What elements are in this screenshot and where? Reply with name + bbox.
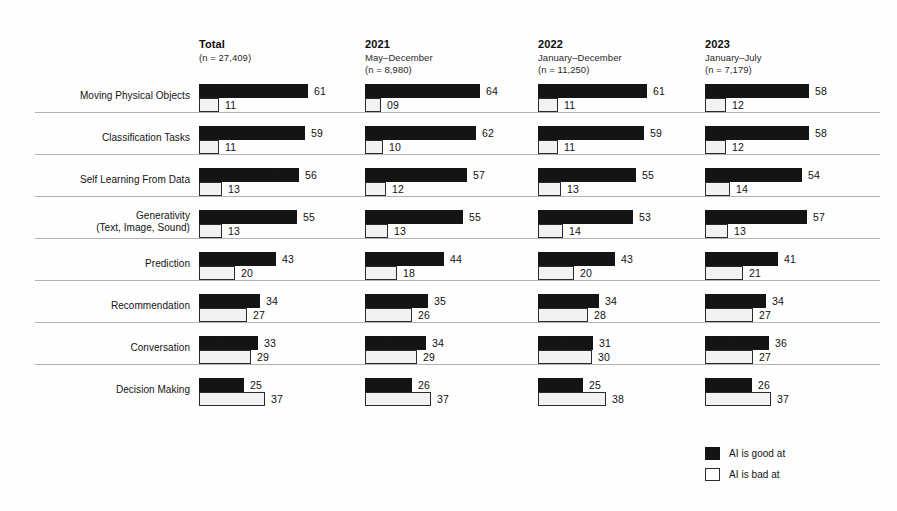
bar-value-label: 64 bbox=[486, 84, 498, 98]
bar-value-label: 13 bbox=[734, 224, 746, 238]
column-header-sample-size: (n = 11,250) bbox=[538, 64, 622, 76]
bar-ai-good-at bbox=[705, 336, 769, 350]
bar-value-label: 12 bbox=[732, 140, 744, 154]
bar-ai-bad-at bbox=[199, 98, 219, 112]
column-header-2022: 2022January–December(n = 11,250) bbox=[538, 38, 622, 76]
chart-row: Moving Physical Objects6111640961115812 bbox=[0, 76, 897, 117]
column-header-year: 2022 bbox=[538, 38, 622, 50]
bar-ai-good-at bbox=[705, 84, 809, 98]
bar-value-label: 29 bbox=[257, 350, 269, 364]
bar-ai-good-at bbox=[538, 294, 599, 308]
bar-ai-good-at bbox=[705, 252, 778, 266]
row-label: Classification Tasks bbox=[40, 132, 190, 144]
bar-value-label: 25 bbox=[589, 378, 601, 392]
bar-ai-bad-at bbox=[538, 140, 558, 154]
legend-item-good: AI is good at bbox=[705, 443, 785, 464]
chart-row: Conversation3329342931303627 bbox=[0, 328, 897, 369]
bar-ai-good-at bbox=[199, 336, 258, 350]
bar-ai-bad-at bbox=[705, 350, 753, 364]
bar-ai-good-at bbox=[199, 378, 244, 392]
bar-value-label: 13 bbox=[567, 182, 579, 196]
chart-row: Generativity(Text, Image, Sound)55135513… bbox=[0, 202, 897, 243]
bar-ai-bad-at bbox=[199, 308, 247, 322]
bar-ai-bad-at bbox=[538, 350, 592, 364]
bar-ai-bad-at bbox=[365, 140, 383, 154]
bar-value-label: 21 bbox=[749, 266, 761, 280]
bar-value-label: 54 bbox=[808, 168, 820, 182]
bar-ai-good-at bbox=[199, 210, 297, 224]
bar-value-label: 13 bbox=[394, 224, 406, 238]
bar-ai-bad-at bbox=[705, 308, 753, 322]
bar-ai-bad-at bbox=[199, 140, 219, 154]
bar-ai-good-at bbox=[705, 294, 766, 308]
bar-ai-good-at bbox=[365, 336, 426, 350]
bar-value-label: 26 bbox=[418, 378, 430, 392]
column-header-year: 2023 bbox=[705, 38, 762, 50]
bar-value-label: 56 bbox=[305, 168, 317, 182]
bar-value-label: 57 bbox=[813, 210, 825, 224]
row-separator bbox=[35, 238, 880, 239]
bar-value-label: 09 bbox=[387, 98, 399, 112]
bar-value-label: 11 bbox=[225, 98, 236, 112]
bar-value-label: 11 bbox=[564, 98, 575, 112]
legend-swatch-good bbox=[705, 447, 720, 460]
bar-value-label: 29 bbox=[423, 350, 435, 364]
row-separator bbox=[35, 112, 880, 113]
bar-value-label: 12 bbox=[732, 98, 744, 112]
bar-value-label: 34 bbox=[432, 336, 444, 350]
bar-value-label: 37 bbox=[271, 392, 283, 406]
bar-ai-good-at bbox=[538, 84, 647, 98]
bar-ai-good-at bbox=[199, 126, 305, 140]
bar-ai-good-at bbox=[365, 126, 476, 140]
bar-ai-bad-at bbox=[705, 392, 771, 406]
bar-value-label: 12 bbox=[392, 182, 404, 196]
bar-value-label: 10 bbox=[389, 140, 401, 154]
bar-value-label: 53 bbox=[639, 210, 651, 224]
bar-ai-good-at bbox=[365, 210, 463, 224]
column-header-2021: 2021May–December(n = 8,980) bbox=[365, 38, 433, 76]
bar-ai-good-at bbox=[365, 294, 428, 308]
bar-ai-good-at bbox=[538, 378, 583, 392]
bar-ai-bad-at bbox=[705, 140, 726, 154]
row-label: Decision Making bbox=[40, 384, 190, 396]
bar-ai-good-at bbox=[199, 294, 260, 308]
bar-value-label: 18 bbox=[403, 266, 415, 280]
column-header-sample-size: (n = 7,179) bbox=[705, 64, 762, 76]
chart-row: Recommendation3427352634283427 bbox=[0, 286, 897, 327]
bar-value-label: 20 bbox=[580, 266, 592, 280]
bar-ai-bad-at bbox=[199, 182, 222, 196]
row-label: Self Learning From Data bbox=[40, 174, 190, 186]
column-header-period: January–December bbox=[538, 52, 622, 64]
bar-ai-bad-at bbox=[365, 224, 388, 238]
bar-value-label: 37 bbox=[777, 392, 789, 406]
bar-ai-bad-at bbox=[365, 98, 381, 112]
bar-value-label: 11 bbox=[225, 140, 236, 154]
column-header-sample-size: (n = 27,409) bbox=[199, 52, 251, 64]
bar-value-label: 43 bbox=[282, 252, 294, 266]
chart-row: Decision Making2537263725382637 bbox=[0, 370, 897, 411]
bar-ai-good-at bbox=[365, 252, 444, 266]
bar-ai-good-at bbox=[538, 336, 593, 350]
bar-value-label: 36 bbox=[775, 336, 787, 350]
bar-ai-good-at bbox=[538, 210, 633, 224]
bar-value-label: 55 bbox=[469, 210, 481, 224]
bar-ai-good-at bbox=[705, 378, 752, 392]
bar-value-label: 35 bbox=[434, 294, 446, 308]
bar-value-label: 61 bbox=[314, 84, 326, 98]
bar-ai-bad-at bbox=[199, 224, 222, 238]
bar-value-label: 27 bbox=[759, 350, 771, 364]
bar-ai-good-at bbox=[705, 126, 809, 140]
bar-value-label: 41 bbox=[784, 252, 796, 266]
bar-value-label: 30 bbox=[598, 350, 610, 364]
bar-value-label: 25 bbox=[250, 378, 262, 392]
bar-value-label: 26 bbox=[758, 378, 770, 392]
bar-ai-bad-at bbox=[365, 266, 397, 280]
chart-page: Total(n = 27,409)2021May–December(n = 8,… bbox=[0, 0, 897, 511]
row-separator bbox=[35, 154, 880, 155]
bar-value-label: 34 bbox=[266, 294, 278, 308]
row-separator bbox=[35, 196, 880, 197]
bar-value-label: 43 bbox=[621, 252, 633, 266]
bar-value-label: 28 bbox=[594, 308, 606, 322]
bar-ai-good-at bbox=[365, 378, 412, 392]
column-header-2023: 2023January–July(n = 7,179) bbox=[705, 38, 762, 76]
